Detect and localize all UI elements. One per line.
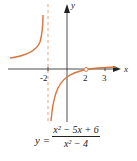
formula-numerator: x² − 5x + 6 xyxy=(52,124,100,137)
y-axis-label: y xyxy=(70,0,75,10)
function-graph: -2 2 3 x y xyxy=(0,0,137,122)
tick-label-neg2: -2 xyxy=(40,73,48,83)
formula-denominator: x² − 4 xyxy=(52,137,100,149)
tick-label-2: 2 xyxy=(83,73,88,83)
left-branch-curve xyxy=(10,15,43,58)
hole-marker xyxy=(84,68,88,72)
formula-lhs: y = xyxy=(35,134,50,146)
function-formula: y = x² − 5x + 6 x² − 4 xyxy=(0,122,137,161)
y-axis-arrow-icon xyxy=(64,4,70,13)
x-axis-label: x xyxy=(123,64,128,74)
formula-fraction: x² − 5x + 6 x² − 4 xyxy=(52,124,100,149)
tick-label-3: 3 xyxy=(102,73,107,83)
